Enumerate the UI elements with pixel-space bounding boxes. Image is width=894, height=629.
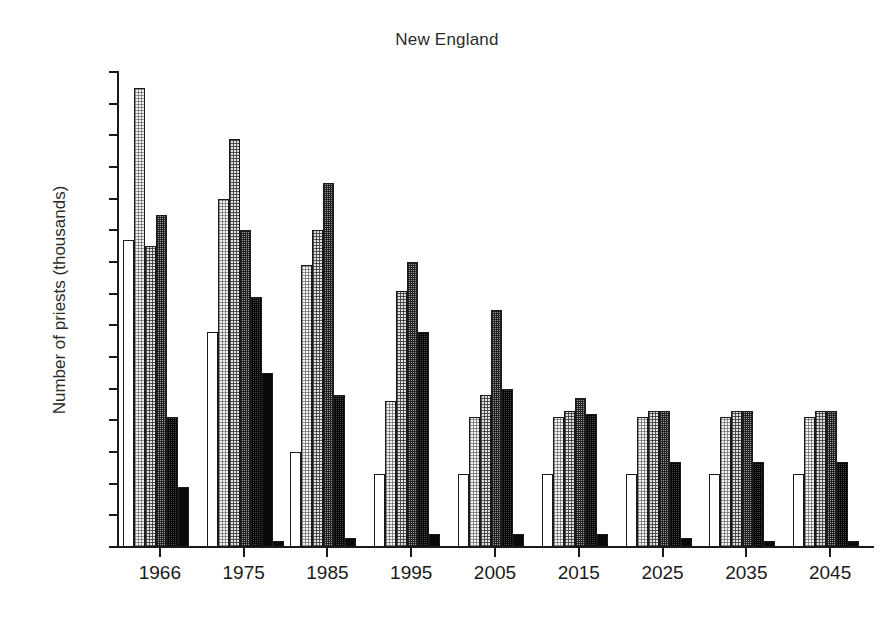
bar bbox=[742, 411, 753, 547]
y-tick-mark bbox=[109, 483, 118, 485]
bar bbox=[262, 373, 273, 547]
bar bbox=[407, 262, 418, 547]
bar bbox=[826, 411, 837, 547]
y-tick-mark bbox=[109, 356, 118, 358]
bar bbox=[429, 534, 440, 547]
chart-figure: New England Number of priests (thousands… bbox=[0, 0, 894, 629]
y-tick-mark bbox=[109, 71, 118, 73]
y-tick-mark bbox=[109, 388, 118, 390]
y-tick-mark bbox=[109, 451, 118, 453]
bar bbox=[207, 332, 218, 547]
bar bbox=[251, 297, 262, 547]
bar bbox=[323, 183, 334, 547]
bar bbox=[156, 215, 167, 548]
bar bbox=[301, 265, 312, 547]
bar bbox=[334, 395, 345, 547]
bar bbox=[491, 310, 502, 548]
bar bbox=[793, 474, 804, 547]
bar bbox=[659, 411, 670, 547]
bar bbox=[764, 541, 775, 547]
bar bbox=[178, 487, 189, 547]
chart-title: New England bbox=[0, 30, 894, 50]
bar bbox=[848, 541, 859, 547]
x-tick-label: 2015 bbox=[558, 562, 600, 584]
bar bbox=[564, 411, 575, 547]
y-axis-label: Number of priests (thousands) bbox=[50, 90, 70, 510]
bar bbox=[709, 474, 720, 547]
x-tick-label: 2045 bbox=[809, 562, 851, 584]
bar bbox=[837, 462, 848, 548]
bar bbox=[167, 417, 178, 547]
bar bbox=[240, 230, 251, 547]
y-tick-mark bbox=[109, 324, 118, 326]
bar bbox=[385, 401, 396, 547]
bar bbox=[458, 474, 469, 547]
x-tick-mark bbox=[243, 548, 245, 557]
bar bbox=[134, 88, 145, 547]
bar bbox=[273, 541, 284, 547]
y-tick-mark bbox=[109, 514, 118, 516]
y-tick-mark bbox=[109, 419, 118, 421]
bar bbox=[502, 389, 513, 547]
bar bbox=[626, 474, 637, 547]
x-tick-mark bbox=[326, 548, 328, 557]
x-tick-mark bbox=[745, 548, 747, 557]
y-tick-mark bbox=[109, 229, 118, 231]
bar bbox=[513, 534, 524, 547]
x-tick-label: 1995 bbox=[390, 562, 432, 584]
x-tick-mark bbox=[159, 548, 161, 557]
plot-area bbox=[118, 72, 872, 547]
bar bbox=[229, 139, 240, 548]
y-tick-mark bbox=[109, 166, 118, 168]
y-tick-mark bbox=[109, 103, 118, 105]
bar bbox=[553, 417, 564, 547]
bar bbox=[123, 240, 134, 547]
bar bbox=[480, 395, 491, 547]
bar bbox=[542, 474, 553, 547]
x-tick-label: 1966 bbox=[139, 562, 181, 584]
bar bbox=[345, 538, 356, 548]
bar bbox=[648, 411, 659, 547]
x-tick-mark bbox=[662, 548, 664, 557]
bar bbox=[670, 462, 681, 548]
x-tick-label: 2035 bbox=[725, 562, 767, 584]
bar bbox=[586, 414, 597, 547]
bar bbox=[731, 411, 742, 547]
bar bbox=[469, 417, 480, 547]
bar bbox=[815, 411, 826, 547]
bar bbox=[290, 452, 301, 547]
bar bbox=[681, 538, 692, 548]
bar bbox=[312, 230, 323, 547]
bar bbox=[637, 417, 648, 547]
bar bbox=[753, 462, 764, 548]
bar bbox=[720, 417, 731, 547]
y-tick-mark bbox=[109, 261, 118, 263]
bar bbox=[804, 417, 815, 547]
y-tick-mark bbox=[109, 134, 118, 136]
x-tick-label: 1985 bbox=[306, 562, 348, 584]
y-tick-mark bbox=[109, 198, 118, 200]
x-tick-label: 1975 bbox=[223, 562, 265, 584]
y-tick-mark bbox=[109, 293, 118, 295]
bar bbox=[218, 199, 229, 547]
bar bbox=[418, 332, 429, 547]
bar bbox=[597, 534, 608, 547]
bar bbox=[396, 291, 407, 548]
x-tick-mark bbox=[578, 548, 580, 557]
x-tick-mark bbox=[494, 548, 496, 557]
bar bbox=[145, 246, 156, 547]
x-tick-mark bbox=[829, 548, 831, 557]
y-tick-mark bbox=[109, 546, 118, 548]
bar bbox=[374, 474, 385, 547]
x-tick-label: 2005 bbox=[474, 562, 516, 584]
x-tick-label: 2025 bbox=[641, 562, 683, 584]
x-tick-mark bbox=[410, 548, 412, 557]
bar bbox=[575, 398, 586, 547]
